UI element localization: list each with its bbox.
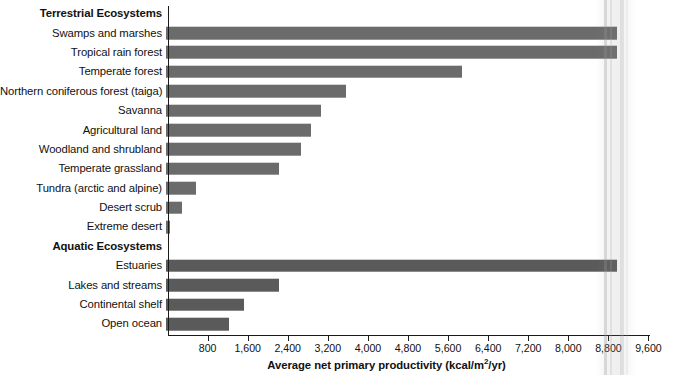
x-tick (368, 336, 369, 341)
bar-cell (166, 217, 673, 236)
x-axis-title-suffix: /yr) (488, 359, 505, 371)
group-heading-row: Terrestrial Ecosystems (0, 4, 673, 23)
x-tick-label: 6,400 (475, 342, 502, 354)
category-label: Continental shelf (0, 298, 166, 311)
x-tick (568, 336, 569, 341)
chart-row: Swamps and marshes (0, 23, 673, 42)
category-label: Temperate forest (0, 65, 166, 78)
x-tick-label: 4,800 (395, 342, 422, 354)
category-label: Swamps and marshes (0, 27, 166, 40)
bar (166, 298, 244, 311)
chart-row: Temperate forest (0, 62, 673, 81)
x-tick-label: 2,400 (274, 342, 301, 354)
bar (166, 182, 196, 195)
x-tick-label: 9,600 (635, 342, 662, 354)
category-label: Tropical rain forest (0, 46, 166, 59)
bar-cell (166, 237, 673, 256)
category-label: Tundra (arctic and alpine) (0, 182, 166, 195)
x-tick-label: 7,200 (515, 342, 542, 354)
x-tick-label: 8,000 (555, 342, 582, 354)
x-tick (528, 336, 529, 341)
chart-row: Savanna (0, 101, 673, 120)
x-tick-label: 5,600 (435, 342, 462, 354)
x-axis-title: Average net primary productivity (kcal/m… (0, 357, 673, 371)
bar (166, 46, 617, 59)
bar (166, 85, 346, 98)
bar-cell (166, 62, 673, 81)
chart-row: Tundra (arctic and alpine) (0, 179, 673, 198)
chart-row: Estuaries (0, 256, 673, 275)
y-axis-line (168, 6, 169, 336)
chart-row: Temperate grassland (0, 159, 673, 178)
category-label: Extreme desert (0, 220, 166, 233)
x-tick-label: 1,600 (234, 342, 261, 354)
category-label: Estuaries (0, 259, 166, 272)
chart-row: Open ocean (0, 314, 673, 333)
group-heading-label: Aquatic Ecosystems (0, 240, 166, 253)
bar-chart: Terrestrial EcosystemsSwamps and marshes… (0, 0, 673, 375)
bar-cell (166, 275, 673, 294)
bar-cell (166, 23, 673, 42)
bar-cell (166, 4, 673, 23)
bar-cell (166, 159, 673, 178)
category-label: Northern coniferous forest (taiga) (0, 85, 166, 98)
group-heading-label: Terrestrial Ecosystems (0, 7, 166, 20)
chart-rows: Terrestrial EcosystemsSwamps and marshes… (0, 4, 673, 334)
bar-cell (166, 256, 673, 275)
chart-row: Extreme desert (0, 217, 673, 236)
chart-row: Lakes and streams (0, 275, 673, 294)
x-tick (208, 336, 209, 341)
x-tick (288, 336, 289, 341)
bar (166, 66, 462, 79)
bar-cell (166, 140, 673, 159)
category-label: Savanna (0, 104, 166, 117)
chart-row: Desert scrub (0, 198, 673, 217)
category-label: Agricultural land (0, 124, 166, 137)
group-heading-row: Aquatic Ecosystems (0, 237, 673, 256)
bar-cell (166, 82, 673, 101)
bar-cell (166, 198, 673, 217)
x-tick (648, 336, 649, 341)
bar (166, 259, 617, 272)
bar-cell (166, 43, 673, 62)
chart-row: Agricultural land (0, 120, 673, 139)
x-tick-label: 3,200 (315, 342, 342, 354)
bar-cell (166, 101, 673, 120)
category-label: Lakes and streams (0, 279, 166, 292)
x-tick (328, 336, 329, 341)
x-tick (248, 336, 249, 341)
bar (166, 318, 229, 331)
category-label: Temperate grassland (0, 162, 166, 175)
category-label: Desert scrub (0, 201, 166, 214)
bar (166, 143, 301, 156)
chart-row: Continental shelf (0, 295, 673, 314)
bar-cell (166, 120, 673, 139)
x-tick (408, 336, 409, 341)
bar (166, 163, 279, 176)
chart-row: Northern coniferous forest (taiga) (0, 82, 673, 101)
x-tick (448, 336, 449, 341)
bar (166, 124, 311, 137)
category-label: Woodland and shrubland (0, 143, 166, 156)
x-tick-label: 4,000 (355, 342, 382, 354)
x-tick (608, 336, 609, 341)
x-tick-label: 8,800 (595, 342, 622, 354)
chart-row: Tropical rain forest (0, 43, 673, 62)
bar (166, 27, 617, 40)
x-tick-label: 800 (199, 342, 217, 354)
bar-cell (166, 179, 673, 198)
x-tick (488, 336, 489, 341)
category-label: Open ocean (0, 317, 166, 330)
bar (166, 279, 279, 292)
x-axis-title-main: Average net primary productivity (kcal/m (267, 359, 484, 371)
chart-row: Woodland and shrubland (0, 140, 673, 159)
bar (166, 104, 321, 117)
bar-cell (166, 295, 673, 314)
bar-cell (166, 314, 673, 333)
